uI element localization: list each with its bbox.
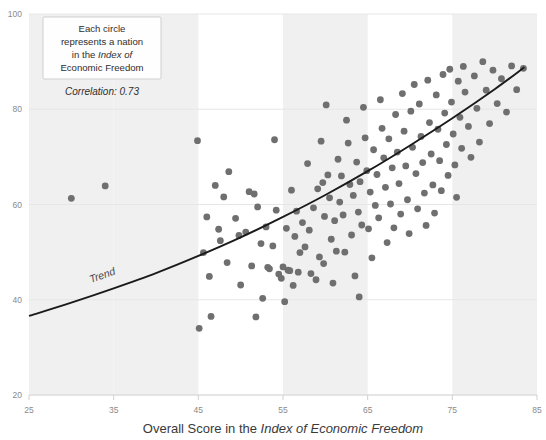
scatter-point	[440, 71, 447, 78]
scatter-point	[441, 110, 448, 117]
scatter-point	[468, 154, 475, 161]
scatter-point	[401, 128, 408, 135]
scatter-point	[445, 172, 452, 179]
scatter-point	[331, 217, 338, 224]
y-tick-label: 20	[13, 390, 23, 400]
scatter-point	[473, 105, 480, 112]
scatter-point	[411, 81, 418, 88]
scatter-point	[389, 164, 396, 171]
scatter-point	[206, 273, 213, 280]
scatter-point	[196, 325, 203, 332]
scatter-point	[220, 193, 227, 200]
scatter-point	[385, 135, 392, 142]
scatter-point	[295, 269, 302, 276]
scatter-point	[248, 263, 255, 270]
scatter-point	[426, 119, 433, 126]
y-tick-label: 100	[8, 9, 22, 19]
scatter-point	[448, 99, 455, 106]
scatter-point	[513, 86, 520, 93]
scatter-point	[453, 194, 460, 201]
scatter-point	[232, 215, 239, 222]
scatter-point	[399, 90, 406, 97]
scatter-point	[340, 212, 347, 219]
scatter-point	[429, 182, 436, 189]
scatter-point	[273, 207, 280, 214]
scatter-point	[369, 254, 376, 261]
scatter-point	[375, 214, 382, 221]
scatter-point	[397, 211, 404, 218]
scatter-point	[413, 170, 420, 177]
scatter-point	[494, 100, 501, 107]
scatter-point	[215, 226, 222, 233]
scatter-point	[384, 239, 391, 246]
scatter-point	[225, 168, 232, 175]
svg-text:Overall Score in the Index of: Overall Score in the Index of Economic F…	[143, 421, 424, 436]
x-tick-label: 55	[278, 405, 288, 415]
x-tick-label: 75	[448, 405, 458, 415]
scatter-point	[313, 276, 320, 283]
scatter-point	[490, 67, 497, 74]
scatter-point	[433, 92, 440, 99]
x-tick-label: 35	[109, 405, 119, 415]
scatter-point	[320, 260, 327, 267]
scatter-point	[290, 282, 297, 289]
scatter-point	[335, 156, 342, 163]
scatter-point	[355, 209, 362, 216]
scatter-point	[414, 205, 421, 212]
scatter-point	[450, 131, 457, 138]
scatter-point	[324, 172, 331, 179]
annotation-line-4: Economic Freedom	[60, 62, 143, 73]
scatter-point	[476, 139, 483, 146]
y-tick-label: 40	[13, 295, 23, 305]
chart-svg: 20406080100 25354555657585 Trend Each ci…	[0, 0, 546, 440]
x-axis-title-italic: Index of Economic Freedom	[261, 421, 424, 436]
scatter-point	[416, 101, 423, 108]
scatter-point	[237, 282, 244, 289]
x-tick-label: 25	[24, 405, 34, 415]
scatter-point	[208, 313, 215, 320]
scatter-point	[308, 270, 315, 277]
x-tick-label: 65	[363, 405, 373, 415]
scatter-point	[326, 194, 333, 201]
scatter-point	[102, 183, 109, 190]
x-axis-title-plain: Overall Score in the	[143, 421, 261, 436]
scatter-point	[455, 78, 462, 85]
scatter-point	[269, 243, 276, 250]
scatter-point	[471, 73, 478, 80]
scatter-point	[372, 202, 379, 209]
scatter-point	[304, 160, 311, 167]
scatter-point	[402, 163, 409, 170]
scatter-point	[374, 171, 381, 178]
scatter-point	[251, 191, 258, 198]
scatter-chart: 20406080100 25354555657585 Trend Each ci…	[0, 0, 546, 440]
scatter-point	[421, 190, 428, 197]
scatter-point	[508, 63, 515, 70]
correlation-label: Correlation: 0.73	[65, 86, 139, 97]
scatter-point	[358, 222, 365, 229]
scatter-point	[436, 157, 443, 164]
annotation-line-1: Each circle	[79, 23, 126, 34]
scatter-point	[446, 66, 453, 73]
scatter-point	[352, 273, 359, 280]
scatter-point	[266, 265, 273, 272]
scatter-point	[348, 232, 355, 239]
scatter-point	[316, 253, 323, 260]
scatter-point	[424, 77, 431, 84]
scatter-point	[479, 58, 486, 65]
scatter-point	[286, 267, 293, 274]
scatter-point	[321, 213, 328, 220]
scatter-point	[319, 179, 326, 186]
scatter-point	[271, 136, 278, 143]
scatter-point	[302, 243, 309, 250]
scatter-point	[382, 184, 389, 191]
x-tick-label: 45	[194, 405, 204, 415]
scatter-point	[406, 230, 413, 237]
annotation-line-2: represents a nation	[61, 36, 143, 47]
scatter-point	[310, 204, 317, 211]
scatter-point	[333, 248, 340, 255]
scatter-point	[465, 123, 472, 130]
scatter-point	[362, 134, 369, 141]
y-axis-tick-labels: 20406080100	[8, 9, 22, 400]
scatter-point	[356, 293, 363, 300]
scatter-point	[299, 219, 306, 226]
